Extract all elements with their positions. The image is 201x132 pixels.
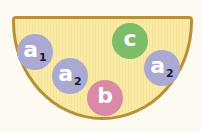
ball-label: a xyxy=(58,63,73,85)
ball-label: b xyxy=(97,85,113,107)
ball-b: b xyxy=(87,80,123,116)
ball-c: c xyxy=(112,23,148,59)
ball-subscript: 1 xyxy=(39,52,47,63)
ball-a1: a1 xyxy=(17,34,53,70)
ball-label: a xyxy=(150,55,165,77)
ball-subscript: 2 xyxy=(74,76,82,87)
ball-label: c xyxy=(123,28,136,50)
ball-a2-right: a2 xyxy=(144,50,180,86)
ball-a2-left: a2 xyxy=(52,58,88,94)
ball-label: a xyxy=(23,39,38,61)
ball-subscript: 2 xyxy=(166,68,174,79)
